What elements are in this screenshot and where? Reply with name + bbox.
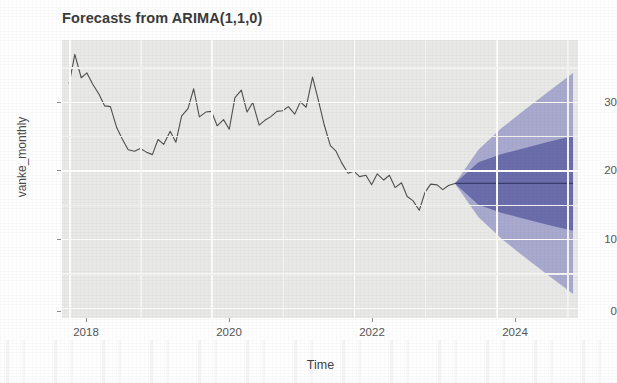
gridline-horizontal [62,170,578,171]
x-tick-mark-2024 [515,318,516,322]
gridline-vertical [354,40,355,318]
x-tick-label-2020: 2020 [199,326,259,338]
gridline-horizontal [62,102,578,103]
gridline-horizontal [62,308,578,309]
gridline-horizontal [62,239,578,240]
y-tick-mark-20 [57,170,61,171]
gridline-horizontal [62,205,578,206]
gridline-vertical [496,40,497,318]
y-axis-label: vanke_monthly [15,97,29,217]
x-tick-mark-2018 [86,318,87,322]
gridline-vertical [425,40,426,318]
historical-series-line [69,54,455,210]
page-title: Forecasts from ARIMA(1,1,0) [62,10,262,26]
gridline-horizontal [62,136,578,137]
y-tick-mark-10 [57,239,61,240]
y-tick-mark-30 [57,102,61,103]
gridline-vertical [140,40,141,318]
x-tick-mark-2020 [229,318,230,322]
x-tick-label-2018: 2018 [56,326,116,338]
x-axis-label: Time [62,358,579,372]
arima-forecast-chart: Forecasts from ARIMA(1,1,0) vanke_monthl… [0,0,617,383]
y-tick-label-30: 30 [583,96,617,108]
gridline-vertical [69,40,70,318]
gridline-vertical [567,40,568,318]
x-tick-label-2024: 2024 [485,326,545,338]
plot-panel [62,40,578,318]
x-tick-mark-2022 [372,318,373,322]
gridline-vertical [211,40,212,318]
x-tick-label-2022: 2022 [342,326,402,338]
gridline-vertical [283,40,284,318]
y-tick-label-10: 10 [583,233,617,245]
y-tick-mark-0 [57,311,61,312]
y-tick-label-0: 0 [583,305,617,317]
y-tick-label-20: 20 [583,164,617,176]
gridline-horizontal [62,67,578,68]
gridline-horizontal [62,273,578,274]
